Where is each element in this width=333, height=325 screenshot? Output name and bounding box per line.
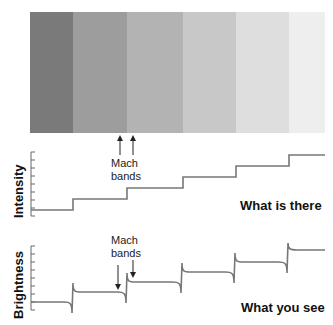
brightness-axis: [31, 246, 35, 310]
mach-bands-label-top: Machbands: [111, 157, 141, 183]
brightness-axis-label: Brightness: [11, 251, 26, 319]
intensity-axis: [31, 152, 35, 216]
intensity-axis-label: Intensity: [11, 165, 26, 218]
diagram-lines: [0, 0, 333, 325]
what-you-see-caption: What you see: [241, 300, 325, 315]
mach-bands-label-bottom: Machbands: [111, 234, 141, 260]
what-is-there-caption: What is there: [240, 198, 322, 213]
